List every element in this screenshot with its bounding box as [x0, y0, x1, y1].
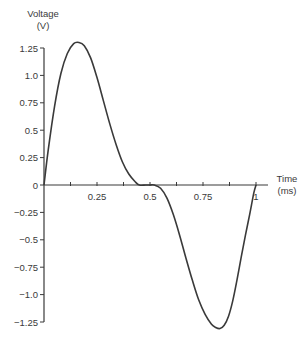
- x-tick-label: 0.5: [143, 191, 156, 202]
- x-axis-title: Time (ms): [277, 173, 298, 196]
- y-tick-label: 1.0: [25, 70, 38, 81]
- y-tick-label: 0.75: [20, 97, 39, 108]
- y-tick-label: 1.25: [20, 43, 39, 54]
- y-axis-title-line2: (V): [37, 20, 50, 31]
- y-tick-label: −1.0: [19, 289, 38, 300]
- x-axis-title-line1: Time: [277, 173, 298, 184]
- y-tick-label: −0.25: [14, 207, 38, 218]
- y-tick-label: −1.25: [14, 317, 38, 328]
- y-tick-label: 0: [33, 180, 38, 191]
- x-axis-title-line2: (ms): [278, 185, 297, 196]
- y-tick-label: −0.5: [19, 234, 38, 245]
- x-tick-label: 0.25: [88, 191, 107, 202]
- y-tick-label: −0.75: [14, 262, 38, 273]
- y-axis-title-line1: Voltage: [27, 8, 59, 19]
- x-tick-label: 0.75: [194, 191, 213, 202]
- y-axis-ticks: 1.251.00.750.50.250−0.25−0.5−0.75−1.0−1.…: [14, 43, 44, 328]
- y-tick-label: 0.5: [25, 125, 38, 136]
- y-axis-title: Voltage (V): [27, 8, 59, 31]
- voltage-time-chart: Voltage (V) Time (ms) 1.251.00.750.50.25…: [0, 0, 305, 338]
- y-tick-label: 0.25: [20, 152, 39, 163]
